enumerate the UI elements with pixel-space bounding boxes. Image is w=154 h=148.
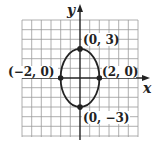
x-axis-label: x (142, 80, 152, 96)
label-right: (2, 0) (102, 65, 138, 79)
y-axis-arrow-icon (77, 4, 83, 12)
point-left (58, 75, 64, 81)
point-top (77, 46, 83, 52)
point-bottom (77, 104, 83, 110)
label-bottom: (0, −3) (83, 111, 129, 125)
label-left: (−2, 0) (8, 65, 54, 79)
ellipse-graph: x y (0, 3) (−2, 0) (2, 0) (0, −3) (0, 0, 154, 148)
label-top: (0, 3) (83, 33, 119, 47)
y-axis-label: y (66, 2, 76, 18)
